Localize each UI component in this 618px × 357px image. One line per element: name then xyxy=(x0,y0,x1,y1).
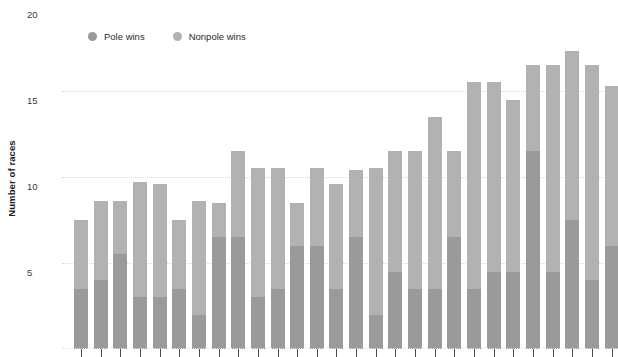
bar-segment-nonpole-wins[interactable] xyxy=(329,184,343,289)
bar-group[interactable] xyxy=(172,220,186,349)
bar-segment-pole-wins[interactable] xyxy=(447,237,461,349)
bar-group[interactable] xyxy=(526,65,540,349)
bar-group[interactable] xyxy=(447,151,461,349)
x-tick-mark xyxy=(297,349,298,357)
bar-group[interactable] xyxy=(349,170,363,349)
x-tick-mark xyxy=(317,349,318,357)
x-tick-mark xyxy=(572,349,573,357)
x-axis-baseline xyxy=(62,348,618,349)
bar-segment-nonpole-wins[interactable] xyxy=(506,100,520,272)
bar-segment-nonpole-wins[interactable] xyxy=(447,151,461,237)
bar-segment-pole-wins[interactable] xyxy=(369,315,383,349)
bar-segment-pole-wins[interactable] xyxy=(349,237,363,349)
plot-area xyxy=(62,0,618,357)
bar-group[interactable] xyxy=(94,201,108,349)
bar-segment-nonpole-wins[interactable] xyxy=(349,170,363,237)
bar-segment-pole-wins[interactable] xyxy=(487,272,501,349)
bar-group[interactable] xyxy=(428,117,442,349)
bar-group[interactable] xyxy=(585,65,599,349)
bar-group[interactable] xyxy=(133,182,147,349)
bar-segment-nonpole-wins[interactable] xyxy=(94,201,108,280)
x-tick-mark xyxy=(454,349,455,357)
bar-segment-pole-wins[interactable] xyxy=(231,237,245,349)
bar-segment-pole-wins[interactable] xyxy=(526,151,540,349)
bar-group[interactable] xyxy=(605,86,618,349)
bar-segment-pole-wins[interactable] xyxy=(192,315,206,349)
bar-segment-pole-wins[interactable] xyxy=(329,289,343,349)
bar-segment-nonpole-wins[interactable] xyxy=(408,151,422,289)
bar-segment-pole-wins[interactable] xyxy=(212,237,226,349)
bar-group[interactable] xyxy=(231,151,245,349)
bar-segment-pole-wins[interactable] xyxy=(271,289,285,349)
bar-group[interactable] xyxy=(271,168,285,349)
x-tick-mark xyxy=(120,349,121,357)
bar-segment-pole-wins[interactable] xyxy=(172,289,186,349)
bar-segment-nonpole-wins[interactable] xyxy=(526,65,540,151)
bar-segment-nonpole-wins[interactable] xyxy=(113,201,127,254)
bar-segment-nonpole-wins[interactable] xyxy=(310,168,324,245)
bar-segment-pole-wins[interactable] xyxy=(113,254,127,349)
bar-group[interactable] xyxy=(467,82,481,349)
bar-segment-nonpole-wins[interactable] xyxy=(153,184,167,298)
bar-segment-nonpole-wins[interactable] xyxy=(369,168,383,314)
bar-group[interactable] xyxy=(113,201,127,349)
bar-group[interactable] xyxy=(565,51,579,349)
bar-segment-nonpole-wins[interactable] xyxy=(565,51,579,220)
bar-group[interactable] xyxy=(329,184,343,349)
bar-segment-nonpole-wins[interactable] xyxy=(133,182,147,297)
x-tick-mark xyxy=(101,349,102,357)
bar-group[interactable] xyxy=(251,168,265,349)
bar-segment-nonpole-wins[interactable] xyxy=(605,86,618,246)
bar-segment-nonpole-wins[interactable] xyxy=(172,220,186,289)
bar-group[interactable] xyxy=(546,65,560,349)
x-tick-mark xyxy=(376,349,377,357)
x-tick-mark xyxy=(435,349,436,357)
bar-segment-nonpole-wins[interactable] xyxy=(546,65,560,271)
bar-segment-nonpole-wins[interactable] xyxy=(251,168,265,297)
bar-segment-pole-wins[interactable] xyxy=(74,289,88,349)
x-tick-mark xyxy=(238,349,239,357)
bar-segment-pole-wins[interactable] xyxy=(467,289,481,349)
bar-segment-nonpole-wins[interactable] xyxy=(467,82,481,288)
bar-segment-pole-wins[interactable] xyxy=(153,297,167,349)
bar-segment-nonpole-wins[interactable] xyxy=(192,201,206,315)
bar-group[interactable] xyxy=(310,168,324,349)
bar-segment-nonpole-wins[interactable] xyxy=(212,203,226,237)
bar-group[interactable] xyxy=(408,151,422,349)
bar-group[interactable] xyxy=(74,220,88,349)
bar-segment-pole-wins[interactable] xyxy=(428,289,442,349)
bar-segment-nonpole-wins[interactable] xyxy=(487,82,501,271)
bar-segment-pole-wins[interactable] xyxy=(585,280,599,349)
x-tick-mark xyxy=(160,349,161,357)
bar-group[interactable] xyxy=(369,168,383,349)
bar-group[interactable] xyxy=(153,184,167,349)
bar-segment-pole-wins[interactable] xyxy=(251,297,265,349)
bar-segment-nonpole-wins[interactable] xyxy=(74,220,88,289)
bar-segment-nonpole-wins[interactable] xyxy=(231,151,245,237)
bar-group[interactable] xyxy=(290,203,304,349)
bar-segment-pole-wins[interactable] xyxy=(310,246,324,349)
bar-segment-pole-wins[interactable] xyxy=(605,246,618,349)
x-tick-mark xyxy=(278,349,279,357)
bar-group[interactable] xyxy=(487,82,501,349)
bar-segment-pole-wins[interactable] xyxy=(94,280,108,349)
bar-segment-pole-wins[interactable] xyxy=(290,246,304,349)
x-tick-mark xyxy=(612,349,613,357)
bar-segment-pole-wins[interactable] xyxy=(133,297,147,349)
y-axis-title-label: Number of races xyxy=(6,140,17,216)
bar-segment-pole-wins[interactable] xyxy=(546,272,560,349)
bar-segment-pole-wins[interactable] xyxy=(408,289,422,349)
bar-segment-nonpole-wins[interactable] xyxy=(271,168,285,288)
bar-group[interactable] xyxy=(506,100,520,349)
x-tick-mark xyxy=(513,349,514,357)
bar-group[interactable] xyxy=(212,203,226,349)
bar-segment-nonpole-wins[interactable] xyxy=(290,203,304,246)
bar-segment-pole-wins[interactable] xyxy=(388,272,402,349)
bar-group[interactable] xyxy=(388,151,402,349)
bar-segment-pole-wins[interactable] xyxy=(506,272,520,349)
bar-segment-nonpole-wins[interactable] xyxy=(388,151,402,271)
bar-segment-nonpole-wins[interactable] xyxy=(428,117,442,289)
bar-group[interactable] xyxy=(192,201,206,349)
bar-segment-pole-wins[interactable] xyxy=(565,220,579,349)
bar-segment-nonpole-wins[interactable] xyxy=(585,65,599,280)
